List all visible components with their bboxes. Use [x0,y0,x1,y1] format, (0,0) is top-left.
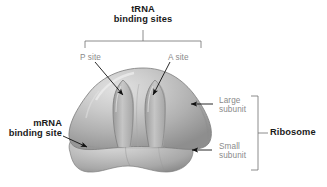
large-subunit-label: Large subunit [219,96,263,114]
small-subunit-label: Small subunit [219,142,263,160]
p-site-groove [113,80,134,147]
mrna-binding-site-label: mRNA binding site [0,118,62,139]
ribosome-diagram: tRNA binding sites P site A site Large s… [0,0,327,187]
ribosome-body [69,68,211,172]
diagram-artwork [0,0,327,187]
a-site-label: A site [168,53,208,62]
p-site-label: P site [80,53,120,62]
large-subunit-shape [69,68,211,150]
ribosome-label: Ribosome [270,127,326,137]
trna-binding-sites-label: tRNA binding sites [96,4,190,25]
trna-bracket [85,30,201,48]
